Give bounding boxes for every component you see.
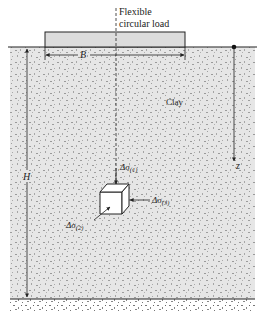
soil-element-cube (100, 184, 129, 214)
stress-3-symbol: Δσ (152, 195, 162, 205)
stress-1-symbol: Δσ (120, 162, 130, 172)
flexible-load (45, 32, 185, 47)
base-layer (10, 299, 255, 313)
width-label-b: B (80, 49, 86, 60)
soil-label-clay: Clay (166, 97, 183, 108)
stress-3-subscript: (3) (162, 199, 170, 206)
diagram-canvas: Flexible circular load B H z Clay Δσ(1) … (0, 0, 265, 321)
load-label-line2: circular load (119, 18, 169, 29)
stress-3-label: Δσ(3) (152, 195, 169, 208)
stress-2-subscript: (2) (76, 224, 84, 231)
z-axis-label: z (236, 160, 240, 171)
stress-2-label: Δσ(2) (66, 220, 83, 233)
load-label-line1: Flexible (119, 6, 152, 17)
stress-2-symbol: Δσ (66, 220, 76, 230)
stress-1-subscript: (1) (130, 166, 138, 173)
depth-label-h: H (23, 171, 30, 182)
soil-diagram-svg (0, 0, 265, 321)
stress-1-label: Δσ(1) (120, 162, 137, 175)
